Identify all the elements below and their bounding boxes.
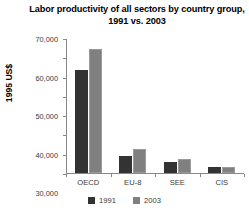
legend-swatch-icon bbox=[88, 197, 95, 204]
y-tick-mark: 30,000 bbox=[63, 116, 66, 117]
bar-cis-1991 bbox=[208, 167, 221, 173]
y-tick-mark: 50,000 bbox=[63, 78, 66, 79]
plot-area: 010,00020,00030,00040,00050,00060,00070,… bbox=[66, 39, 244, 174]
y-axis-title: 1995 US$ bbox=[4, 48, 14, 118]
legend-item-2003[interactable]: 2003 bbox=[133, 196, 161, 205]
y-tick-mark: 70,000 bbox=[63, 39, 66, 40]
y-axis-line bbox=[66, 39, 67, 174]
legend-swatch-icon bbox=[133, 197, 140, 204]
x-category-label-cis: CIS bbox=[215, 178, 228, 187]
x-tick-mark bbox=[66, 174, 67, 177]
x-tick-mark bbox=[155, 174, 156, 177]
x-tick-mark bbox=[111, 174, 112, 177]
legend-label: 2003 bbox=[144, 196, 161, 205]
y-tick-mark: 10,000 bbox=[63, 155, 66, 156]
chart-legend: 19912003 bbox=[0, 196, 249, 205]
bar-see-1991 bbox=[164, 162, 177, 173]
x-category-label-oecd: OECD bbox=[77, 178, 99, 187]
legend-label: 1991 bbox=[99, 196, 116, 205]
y-tick-mark: 40,000 bbox=[63, 97, 66, 98]
chart-title: Labor productivity of all sectors by cou… bbox=[28, 3, 246, 27]
legend-item-1991[interactable]: 1991 bbox=[88, 196, 116, 205]
bar-oecd-2003 bbox=[89, 49, 102, 173]
x-tick-mark bbox=[244, 174, 245, 177]
y-tick-mark: 60,000 bbox=[63, 58, 66, 59]
bar-oecd-1991 bbox=[75, 70, 88, 173]
y-tick-label: 70,000 bbox=[35, 35, 58, 44]
bar-eu-8-2003 bbox=[133, 149, 146, 173]
bar-chart-figure: Labor productivity of all sectors by cou… bbox=[0, 0, 249, 217]
y-tick-label: 60,000 bbox=[35, 73, 58, 82]
bar-cis-2003 bbox=[222, 167, 235, 173]
x-category-label-eu-8: EU-8 bbox=[124, 178, 141, 187]
bar-eu-8-1991 bbox=[119, 156, 132, 173]
y-tick-label: 40,000 bbox=[35, 150, 58, 159]
x-category-label-see: SEE bbox=[170, 178, 185, 187]
y-tick-mark: 20,000 bbox=[63, 135, 66, 136]
y-tick-label: 50,000 bbox=[35, 112, 58, 121]
bar-see-2003 bbox=[178, 159, 191, 173]
x-tick-mark bbox=[200, 174, 201, 177]
